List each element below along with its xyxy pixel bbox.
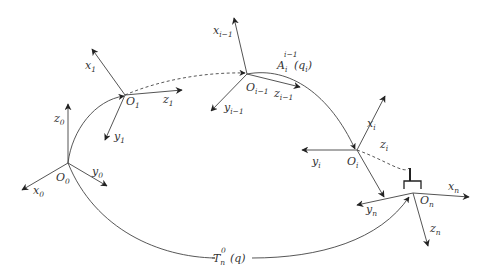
link-transform-arg: (qi) [294, 59, 312, 74]
y1-label: y1 [113, 130, 125, 145]
xi-label: xi [367, 117, 376, 132]
link-transform-label: Ai [276, 59, 288, 74]
total-transform-curve [68, 163, 215, 258]
zn-label: zn [429, 222, 441, 237]
total-transform-arg: (q) [230, 252, 246, 265]
Oi-label: Oi [347, 155, 359, 170]
z0-label: z0 [53, 112, 65, 127]
yi-label: yi [311, 155, 321, 170]
x-i-1-axis [234, 18, 247, 74]
z-i-1-label: zi−1 [273, 87, 293, 102]
link-dashed-i-n [357, 150, 409, 170]
x0-label: x0 [33, 184, 44, 199]
total-transform-curve-right [252, 197, 409, 258]
On-label: On [420, 194, 434, 209]
x1-label: x1 [85, 59, 96, 74]
zi-axis [357, 150, 384, 197]
gripper-icon [404, 168, 421, 189]
link-curve-i-1-i [247, 73, 355, 149]
x1-axis [92, 49, 125, 95]
z1-label: z1 [162, 93, 174, 108]
total-transform-sup: 0 [221, 246, 226, 255]
frame-0: z0 x0 y0 O0 [22, 104, 107, 199]
xn-label: xn [448, 180, 459, 195]
frame-i: xi yi zi Oi [302, 96, 389, 197]
frame-n: xn yn zn On [357, 180, 469, 246]
yn-label: yn [365, 203, 377, 218]
x-i-1-label: xi−1 [213, 24, 233, 39]
frame-1: x1 z1 y1 O1 [85, 49, 182, 145]
y0-label: y0 [91, 165, 103, 180]
O1-label: O1 [126, 95, 140, 110]
O0-label: O0 [56, 171, 70, 186]
zi-label: zi [379, 138, 389, 153]
O-i-1-label: Oi−1 [246, 81, 269, 96]
link-transform-sup: i−1 [284, 50, 297, 59]
kinematic-chain-diagram: z0 x0 y0 O0 x1 z1 y1 O1 xi−1 zi−1 yi−1 O… [0, 0, 485, 279]
link-dashed-1-i-1 [125, 73, 245, 95]
y-i-1-label: yi−1 [223, 101, 244, 116]
